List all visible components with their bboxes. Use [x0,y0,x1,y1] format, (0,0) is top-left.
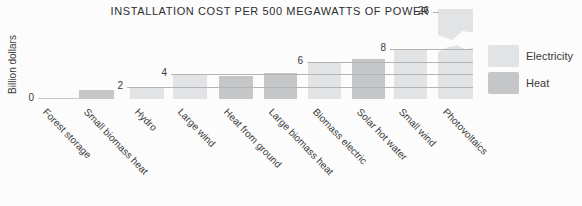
y-tick-label-2: 2 [107,80,123,91]
bar-biomass-electric [308,62,341,99]
y-tick-label-26: 26 [413,5,429,16]
electricity-swatch [488,45,519,67]
bar-forest-storage [38,98,80,100]
y-tick-label-4: 4 [151,67,167,78]
bar-hydro [130,87,164,99]
bar-photovoltaics-lower-segment [438,43,473,99]
legend-label-heat: Heat [526,77,549,89]
bar-solar-hot-water [352,59,385,99]
y-axis-label: Billion dollars [7,35,18,95]
chart-figure: INSTALLATION COST PER 500 MEGAWATTS OF P… [0,0,582,206]
y-tick-label-6: 6 [287,55,303,66]
x-label-small-wind: Small wind [397,107,438,149]
legend-label-electricity: Electricity [526,50,573,62]
bar-photovoltaics-top-segment [438,9,473,40]
heat-swatch [488,72,519,94]
gridline-26 [433,12,439,13]
x-label-photovoltaics: Photovoltaics [441,107,490,157]
gridline-2 [127,87,473,88]
x-label-hydro: Hydro [133,107,159,133]
x-label-large-wind: Large wind [176,107,217,149]
y-tick-label-0: 0 [18,92,34,103]
y-tick-label-8: 8 [370,42,386,53]
gridline-8 [390,49,473,50]
bar-small-biomass-heat [79,90,114,99]
gridline-6 [307,62,473,63]
gridline-4 [171,74,473,75]
